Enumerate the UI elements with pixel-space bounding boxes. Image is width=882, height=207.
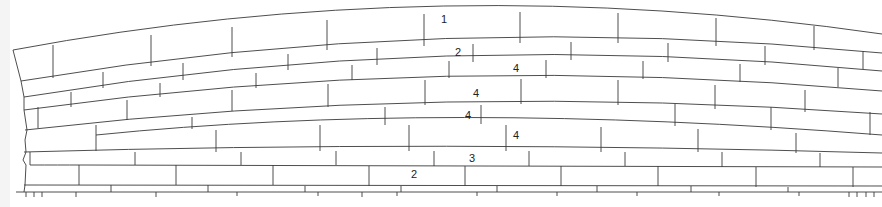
course-line-6 xyxy=(30,165,882,167)
scale-ticks xyxy=(26,192,874,197)
course-line-4 xyxy=(25,101,882,130)
course-label-1: 1 xyxy=(441,13,447,25)
course-line-1 xyxy=(21,37,882,81)
course-label-3: 4 xyxy=(513,62,519,74)
course-line-4b xyxy=(96,118,882,136)
course-line-5 xyxy=(24,146,882,153)
course-label-6: 4 xyxy=(513,129,519,141)
course-lines xyxy=(13,6,882,192)
left-broken-edge xyxy=(13,50,27,192)
course-line-0 xyxy=(13,6,882,50)
course-line-3 xyxy=(24,75,882,110)
course-label-2: 2 xyxy=(455,46,461,58)
course-label-7: 3 xyxy=(469,152,475,164)
course-label-8: 2 xyxy=(411,168,417,180)
course-line-7 xyxy=(24,185,882,186)
course-label-4: 4 xyxy=(473,87,479,99)
course-label-5: 4 xyxy=(465,109,471,121)
masonry-elevation-drawing: 1 2 4 4 4 4 3 2 xyxy=(0,0,882,207)
